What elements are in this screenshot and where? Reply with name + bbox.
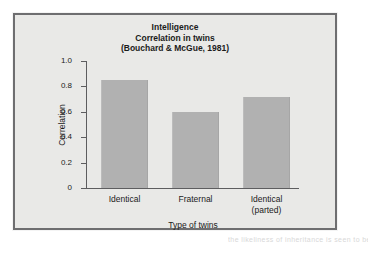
figure-frame: Intelligence Correlation in twins (Bouch…: [13, 13, 337, 230]
y-tick-0.6: 0.6: [81, 112, 87, 113]
y-tick-label-0.8: 0.8: [61, 81, 72, 90]
page-text-bleed: the likeliness of inheritance is seen to…: [228, 236, 368, 250]
x-label-identical-parted-line-1: Identical: [226, 194, 307, 205]
x-label-fraternal-line-1: Fraternal: [155, 194, 236, 205]
x-label-identical-line-1: Identical: [84, 194, 165, 205]
x-label-fraternal: Fraternal: [155, 194, 236, 205]
bar-fraternal: [172, 112, 219, 188]
x-label-identical: Identical: [84, 194, 165, 205]
x-label-identical-parted: Identical (parted): [226, 194, 307, 216]
y-tick-label-0: 0: [68, 183, 72, 192]
bar-identical: [101, 80, 148, 188]
chart-title-line-1: Intelligence: [15, 22, 335, 33]
x-label-identical-parted-line-2: (parted): [226, 205, 307, 216]
y-tick-label-0.6: 0.6: [61, 107, 72, 116]
x-axis-title: Type of twins: [87, 220, 299, 230]
y-tick-0.2: 0.2: [81, 163, 87, 164]
plot-area: Correlation 1.0 0.8 0.6 0.4 0.2 0 Identi…: [87, 61, 299, 188]
chart-title: Intelligence Correlation in twins (Bouch…: [15, 22, 335, 54]
y-tick-0.8: 0.8: [81, 86, 87, 87]
y-tick-0.4: 0.4: [81, 137, 87, 138]
y-tick-label-1.0: 1.0: [61, 56, 72, 65]
y-tick-label-0.4: 0.4: [61, 132, 72, 141]
y-tick-label-0.2: 0.2: [61, 158, 72, 167]
chart-title-line-3: (Bouchard & McGue, 1981): [15, 43, 335, 54]
bar-identical-parted: [243, 97, 290, 188]
y-tick-0: 0: [81, 188, 87, 189]
x-axis-line: [86, 188, 299, 189]
y-tick-1.0: 1.0: [81, 61, 87, 62]
y-axis-line: [86, 61, 87, 189]
chart-title-line-2: Correlation in twins: [15, 33, 335, 44]
